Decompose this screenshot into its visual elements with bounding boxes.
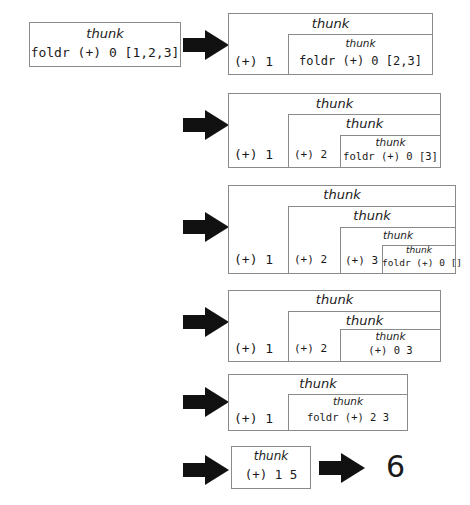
step-row-4: thunk (+) 1 thunk foldr (+) 2 3 [0,369,470,441]
thunk-label-step1-inner: thunk [288,37,433,49]
thunk-label-step2-inner: thunk [340,136,441,148]
thunk-label-step6: thunk [231,449,311,463]
expression-step3: foldr (+) 0 [] [382,257,456,268]
thunk-label-step2-mid: thunk [288,116,441,131]
step-row-5: thunk (+) 1 5 6 [0,441,470,505]
thunk-label-step3-outer: thunk [228,187,456,202]
arrow-head [205,30,229,60]
expression-step2: foldr (+) 0 [3] [340,150,441,162]
thunk-label-step5-inner: thunk [288,395,408,407]
thunk-label-step4-mid: thunk [288,313,441,328]
partial-cell-step5-0: (+) 1 [234,411,273,426]
thunk-label-step5-outer: thunk [228,376,408,391]
arrow-icon-3 [183,307,229,337]
arrow-head [205,307,229,337]
step-row-0: thunk foldr (+) 0 [1,2,3] thunk (+) 1 th… [0,0,470,88]
thunk-label-step4-outer: thunk [228,292,441,307]
partial-cell-step4-0: (+) 1 [234,341,273,356]
arrow-icon-0 [183,30,229,60]
arrow-head [205,212,229,242]
thunk-label-step3-inner: thunk [382,245,456,255]
arrow-head [205,455,229,485]
expression-step0: foldr (+) 0 [1,2,3] [29,45,181,60]
arrow-head [205,387,229,417]
thunk-label-step3-l3: thunk [340,229,456,241]
partial-cell-step4-1: (+) 2 [294,342,327,355]
thunk-label-step0: thunk [29,26,181,41]
partial-cell-step3-1: (+) 2 [294,253,327,266]
arrow-icon-1 [183,110,229,140]
arrow-icon-2 [183,212,229,242]
expression-step1: foldr (+) 0 [2,3] [288,54,433,68]
arrow-icon-5 [183,455,229,485]
expression-step5: foldr (+) 2 3 [288,411,408,423]
final-result-value: 6 [386,452,405,482]
partial-cell-step1-0: (+) 1 [234,54,273,69]
expression-step6: (+) 1 5 [231,467,311,482]
thunk-label-step2-outer: thunk [228,96,441,111]
partial-cell-step3-2: (+) 3 [345,254,378,267]
thunk-label-step4-inner: thunk [340,330,441,342]
partial-cell-step2-1: (+) 2 [294,148,327,161]
thunk-label-step1-outer: thunk [228,16,433,31]
foldr-thunk-diagram: thunk foldr (+) 0 [1,2,3] thunk (+) 1 th… [0,0,470,505]
arrow-icon-4 [183,387,229,417]
expression-step4: (+) 0 3 [340,344,441,356]
partial-cell-step3-0: (+) 1 [234,252,273,267]
arrow-head [341,453,365,483]
arrow-head [205,110,229,140]
partial-cell-step2-0: (+) 1 [234,147,273,162]
step-row-3: thunk (+) 1 thunk (+) 2 thunk (+) 0 3 [0,281,470,369]
step-row-2: thunk (+) 1 thunk (+) 2 thunk (+) 3 thun… [0,176,470,281]
step-row-1: thunk (+) 1 thunk (+) 2 thunk foldr (+) … [0,88,470,176]
arrow-icon-result [319,453,365,483]
thunk-label-step3-l2: thunk [288,208,456,223]
